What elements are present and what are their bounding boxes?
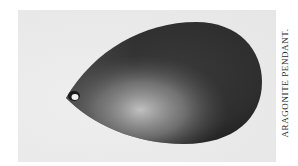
suspension-hole (68, 91, 80, 101)
figure-caption: ARAGONITE PENDANT. (278, 76, 292, 90)
aragonite-pendant-image (64, 20, 264, 146)
caption-text: ARAGONITE PENDANT. (280, 28, 290, 137)
